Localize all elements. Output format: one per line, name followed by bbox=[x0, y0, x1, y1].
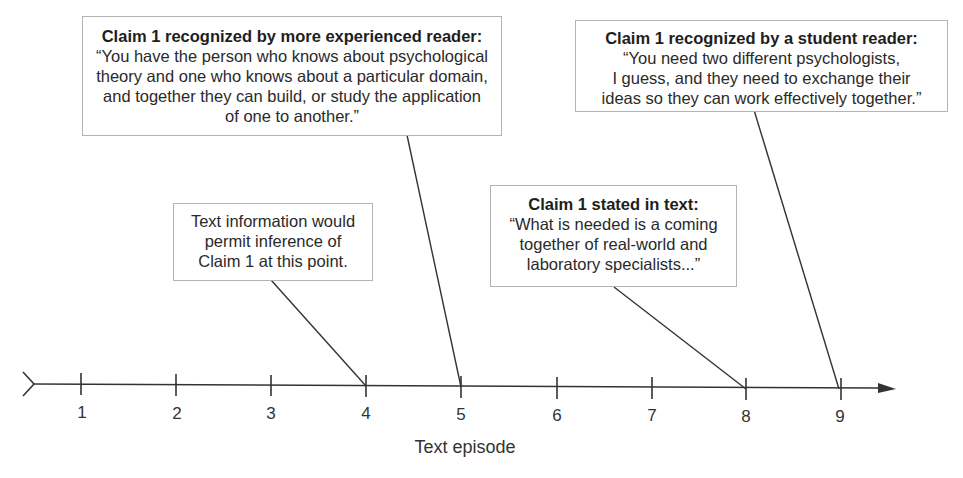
annotation-experienced-reader: Claim 1 recognized by more experienced r… bbox=[82, 16, 502, 136]
tick-label-3: 3 bbox=[266, 404, 275, 424]
tick-label-5: 5 bbox=[456, 405, 465, 425]
tick-label-1: 1 bbox=[77, 403, 86, 423]
axis-line bbox=[34, 384, 880, 388]
annotation-inference-point: Text information would permit inference … bbox=[173, 203, 373, 281]
annotation-title: Claim 1 stated in text: bbox=[491, 194, 736, 214]
annotation-quote: “What is needed is a coming together of … bbox=[491, 214, 736, 274]
tick-label-7: 7 bbox=[647, 406, 656, 426]
tick-label-9: 9 bbox=[835, 407, 844, 427]
axis-arrowhead-icon bbox=[878, 383, 896, 393]
axis-title: Text episode bbox=[414, 437, 515, 458]
connector-episode-5 bbox=[407, 135, 461, 387]
annotation-student-reader: Claim 1 recognized by a student reader: … bbox=[575, 20, 948, 112]
annotation-quote: “You need two different psychologists, I… bbox=[576, 48, 947, 108]
annotation-quote: “You have the person who knows about psy… bbox=[83, 46, 501, 126]
connector-episode-9 bbox=[754, 110, 839, 389]
connector-episode-4 bbox=[271, 280, 366, 386]
annotation-title: Claim 1 recognized by a student reader: bbox=[576, 28, 947, 48]
tick-label-2: 2 bbox=[172, 404, 181, 424]
annotation-title: Claim 1 recognized by more experienced r… bbox=[83, 26, 501, 46]
axis-tail-icon bbox=[23, 372, 34, 396]
tick-label-8: 8 bbox=[741, 407, 750, 427]
tick-label-4: 4 bbox=[361, 404, 370, 424]
annotation-stated-in-text: Claim 1 stated in text: “What is needed … bbox=[490, 185, 737, 287]
connector-episode-8 bbox=[614, 287, 746, 389]
tick-label-6: 6 bbox=[552, 406, 561, 426]
annotation-text: Text information would permit inference … bbox=[174, 211, 372, 271]
